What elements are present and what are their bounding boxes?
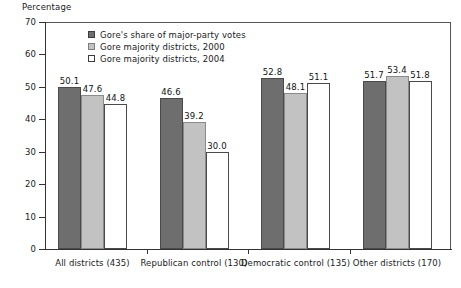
x-axis-category-label: All districts (435)	[55, 258, 130, 268]
bar-value-label: 51.1	[305, 72, 333, 82]
bar	[58, 87, 81, 249]
bar	[104, 104, 127, 249]
legend-swatch-icon	[88, 55, 95, 62]
bar	[206, 152, 229, 249]
x-axis-category-label: Other districts (170)	[353, 258, 441, 268]
bar	[307, 83, 330, 249]
bar	[386, 76, 409, 249]
x-axis-category-label: Republican control (130)	[140, 258, 247, 268]
legend-item: Gore majority districts, 2000	[88, 41, 246, 52]
x-axis-category-label: Democratic control (135)	[241, 258, 350, 268]
bar-value-label: 48.1	[282, 82, 310, 92]
bar	[363, 81, 386, 249]
bar-value-label: 46.6	[157, 87, 185, 97]
legend-item: Gore's share of major-party votes	[88, 29, 246, 40]
bar	[409, 81, 432, 249]
bar-chart-figure: Percentage 010203040506070 50.147.644.84…	[0, 0, 461, 288]
bar	[261, 78, 284, 249]
bar-value-label: 44.8	[102, 93, 130, 103]
legend-swatch-icon	[88, 31, 95, 38]
bar-value-label: 51.8	[406, 70, 434, 80]
legend-label: Gore's share of major-party votes	[100, 30, 246, 40]
bar	[81, 95, 104, 249]
chart-legend: Gore's share of major-party votesGore ma…	[88, 29, 246, 65]
bar-value-label: 39.2	[180, 111, 208, 121]
legend-swatch-icon	[88, 43, 95, 50]
legend-label: Gore majority districts, 2000	[100, 42, 225, 52]
legend-label: Gore majority districts, 2004	[100, 54, 225, 64]
bar-value-label: 30.0	[203, 141, 231, 151]
legend-item: Gore majority districts, 2004	[88, 53, 246, 64]
bar-value-label: 52.8	[259, 67, 287, 77]
bar	[284, 93, 307, 249]
